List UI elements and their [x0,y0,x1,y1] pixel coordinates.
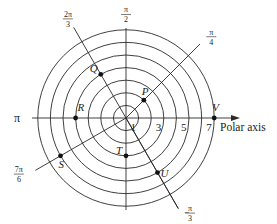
point-r [73,116,78,121]
ring-label: 3 [156,121,162,133]
ray-7pi-6-label: 7π6 [14,165,24,184]
polar-axis-label: Polar axis [220,121,266,133]
point-label-u: U [161,167,170,179]
ring-labels: 1357 [131,121,213,133]
ray-label-numerator: π [188,204,192,213]
ray-label-denominator: 3 [188,214,192,223]
point-label-r: R [77,101,85,113]
ring-label: 5 [181,121,187,133]
point-u [155,170,160,175]
ray-label-numerator: π [209,28,213,37]
ray-7pi-6-line [35,118,126,170]
point-label-q: Q [90,62,98,74]
ring-label: 7 [206,121,212,133]
ray-label-denominator: 3 [66,20,70,29]
polar-diagram: π Polar axis 1357 2π3π2π47π6−π3 PQRSTUV [0,0,277,224]
point-label-p: P [141,85,149,97]
point-t [124,153,129,158]
ray-label-numerator: π [124,5,128,14]
ray-2pi-3-label: 2π3 [63,10,73,29]
ring-label: 1 [131,121,137,133]
point-label-t: T [116,144,123,156]
ray-label-numerator: 2π [64,10,72,19]
pi-label: π [14,111,20,125]
point-label-s: S [59,158,65,170]
plotted-points: PQRSTUV [58,62,220,178]
ray-pi-4-line [126,44,200,118]
ray-label-denominator: 2 [124,15,128,24]
point-v [212,116,217,121]
ray-neg-pi-3-label: −π3 [184,204,195,223]
point-p [141,98,146,103]
ray-pi-4-label: π4 [206,28,216,47]
ray-label-denominator: 6 [17,175,21,184]
ray-pi-2-label: π2 [121,5,131,24]
ray-label-denominator: 4 [209,38,213,47]
point-q [98,72,103,77]
ray-labels: 2π3π2π47π6−π3 [14,5,216,223]
ray-label-numerator: 7π [15,165,23,174]
point-label-v: V [212,101,220,113]
